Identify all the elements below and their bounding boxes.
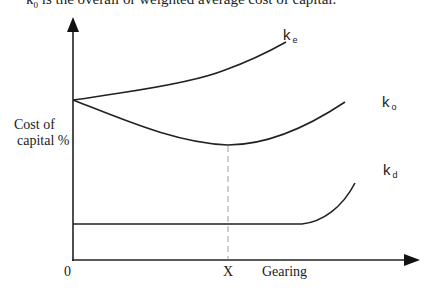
kd-subscript: d — [393, 170, 398, 180]
ko-curve — [73, 100, 345, 145]
kd-curve — [73, 183, 355, 224]
ke-symbol: k — [283, 26, 291, 43]
x-axis-label: Gearing — [262, 264, 307, 279]
origin-label: 0 — [64, 264, 71, 279]
y-axis-label-line2: capital % — [17, 133, 69, 148]
ke-subscript: e — [293, 35, 298, 45]
kd-label: kd — [383, 161, 398, 178]
y-axis-arrow-icon — [67, 17, 79, 32]
ke-curve — [73, 42, 286, 100]
ko-label: ko — [382, 93, 397, 110]
kd-symbol: k — [383, 161, 391, 178]
x-axis-arrow-icon — [404, 254, 420, 266]
ko-subscript: o — [392, 102, 397, 112]
y-axis-label-line1: Cost of — [14, 117, 55, 132]
x-marker-label: X — [223, 264, 233, 279]
ke-label: ke — [283, 26, 298, 43]
ko-symbol: k — [382, 93, 390, 110]
